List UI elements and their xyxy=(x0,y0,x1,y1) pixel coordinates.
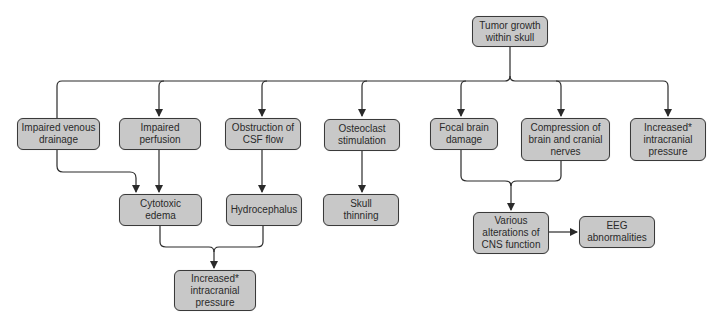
node-increased-icp-right: Increased* intracranial pressure xyxy=(630,118,706,161)
node-focal-brain-damage: Focal brain damage xyxy=(430,118,498,150)
node-cytotoxic-edema: Cytotoxic edema xyxy=(119,194,202,226)
node-impaired-venous-drainage: Impaired venous drainage xyxy=(17,118,100,150)
branch-venous xyxy=(57,81,62,118)
node-eeg-abnormalities: EEG abnormalities xyxy=(579,216,655,248)
branch-icp xyxy=(663,81,668,116)
trunk-line xyxy=(505,46,510,81)
branch-perfusion xyxy=(159,81,164,116)
node-skull-thinning: Skull thinning xyxy=(323,194,399,226)
branch-osteoclast xyxy=(362,81,367,116)
node-compression-brain-nerves: Compression of brain and cranial nerves xyxy=(521,118,610,161)
node-osteoclast-stimulation: Osteoclast stimulation xyxy=(324,119,400,151)
branch-focal xyxy=(461,81,466,116)
node-obstruction-csf-flow: Obstruction of CSF flow xyxy=(225,118,301,150)
branch-compression xyxy=(556,81,561,116)
node-cns-alterations: Various alterations of CNS function xyxy=(473,212,549,254)
flowchart-canvas: Tumor growth within skull Impaired venou… xyxy=(0,0,715,324)
node-tumor-growth: Tumor growth within skull xyxy=(472,16,548,47)
branch-csf xyxy=(262,81,267,116)
node-increased-icp-bottom: Increased* intracranial pressure xyxy=(174,270,256,311)
connector-lines xyxy=(0,0,715,324)
node-impaired-perfusion: Impaired perfusion xyxy=(119,118,201,150)
node-hydrocephalus: Hydrocephalus xyxy=(226,194,302,226)
